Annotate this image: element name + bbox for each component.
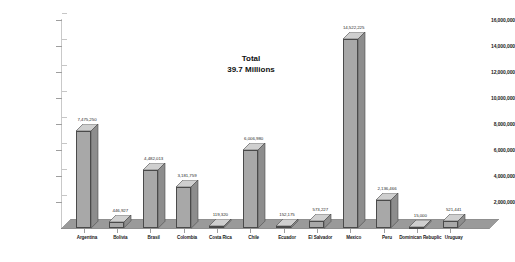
x-axis-tick <box>117 229 118 233</box>
bar-value-label: 4,482,013 <box>134 156 174 161</box>
bar <box>276 0 291 228</box>
bar <box>376 0 391 228</box>
x-axis-tick <box>450 229 451 233</box>
bar <box>309 0 324 228</box>
bar-side-face <box>91 124 99 229</box>
bar-side-face <box>291 219 299 229</box>
bar-value-label: 119,320 <box>200 212 240 217</box>
bar-front-face <box>343 39 358 228</box>
x-axis-tick <box>350 229 351 233</box>
bar-side-face <box>458 214 466 229</box>
bar-value-label: 6,006,980 <box>234 136 274 141</box>
x-axis-tick <box>284 229 285 233</box>
bar-value-label: 2,136,466 <box>367 186 407 191</box>
bar-front-face <box>376 200 391 228</box>
x-axis-tick <box>217 229 218 233</box>
x-axis-tick <box>184 229 185 233</box>
bar-side-face <box>124 215 132 229</box>
bar-value-label: 573,227 <box>300 207 340 212</box>
bar-front-face <box>443 221 458 228</box>
bar-side-face <box>358 32 366 229</box>
total-annotation: Total 39.7 Millions <box>196 53 306 75</box>
bar-value-label: 14,522,225 <box>334 25 374 30</box>
total-annotation-line-1: Total <box>196 53 306 64</box>
total-annotation-line-2: 39.7 Millions <box>196 64 306 75</box>
bar-chart: 16,000,00014,000,00012,000,00010,000,000… <box>0 0 515 262</box>
x-axis-tick <box>417 229 418 233</box>
x-axis-tick <box>150 229 151 233</box>
bar-side-face <box>391 193 399 229</box>
bar-side-face <box>158 163 166 229</box>
bar-value-label: 15,000 <box>400 213 440 218</box>
bar <box>409 0 424 228</box>
bar <box>343 0 358 228</box>
bar-front-face <box>143 170 158 228</box>
bar-series: 7,475,250446,9274,482,0133,181,759119,32… <box>0 0 515 262</box>
bar <box>109 0 124 228</box>
bar-front-face <box>243 150 258 228</box>
bar-side-face <box>424 220 432 230</box>
bar-value-label: 446,927 <box>100 208 140 213</box>
x-axis-tick <box>384 229 385 233</box>
bar <box>76 0 91 228</box>
bar-side-face <box>258 143 266 229</box>
bar-front-face <box>309 221 324 228</box>
x-axis-tick <box>84 229 85 233</box>
plot-area: 16,000,00014,000,00012,000,00010,000,000… <box>0 0 515 262</box>
bar-front-face <box>176 187 191 228</box>
bar-value-label: 3,181,759 <box>167 173 207 178</box>
bar-side-face <box>224 219 232 229</box>
bar <box>143 0 158 228</box>
x-axis-tick <box>317 229 318 233</box>
x-axis-category-label: Uruguay <box>432 235 476 241</box>
bar-front-face <box>76 131 91 228</box>
bar <box>243 0 258 228</box>
bar-side-face <box>191 180 199 229</box>
bar <box>443 0 458 228</box>
bar <box>209 0 224 228</box>
x-axis-tick <box>250 229 251 233</box>
bar-value-label: 152,175 <box>267 212 307 217</box>
bar <box>176 0 191 228</box>
bar-side-face <box>324 214 332 229</box>
bar-value-label: 521,441 <box>434 207 474 212</box>
bar-value-label: 7,475,250 <box>67 117 107 122</box>
